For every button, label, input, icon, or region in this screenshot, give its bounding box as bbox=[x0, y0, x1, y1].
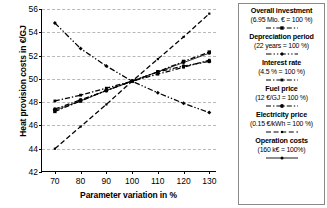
data-point-marker bbox=[53, 100, 56, 103]
data-point-marker bbox=[80, 125, 82, 127]
legend-entry-interest-rate[interactable]: Interest rate(4.5 % = 100 %) bbox=[240, 58, 323, 84]
series-depreciation-period bbox=[53, 21, 211, 115]
y-tick-label: 52 bbox=[29, 51, 38, 61]
x-tick-label: 70 bbox=[50, 176, 59, 186]
legend-entry-reference: (4.5 % = 100 %) bbox=[240, 67, 323, 76]
data-point-marker bbox=[105, 103, 107, 105]
legend-line-swatch-icon bbox=[240, 76, 323, 84]
legend-entry-label: Electricity price bbox=[240, 110, 323, 119]
legend-entry-overall-investment[interactable]: Overall investment(6.95 Mio. € = 100 %) bbox=[240, 6, 323, 32]
data-point-marker bbox=[182, 64, 186, 68]
legend-entry-reference: (0.15 €/kWh = 100 %) bbox=[240, 119, 323, 128]
y-tick-mark bbox=[39, 172, 42, 173]
legend-entry-reference: (160 k€ = 100%) bbox=[240, 145, 323, 154]
legend-entry-reference: (22 years = 100 %) bbox=[240, 41, 323, 50]
data-point-marker bbox=[182, 61, 185, 64]
data-point-marker bbox=[207, 111, 211, 115]
data-point-marker bbox=[280, 79, 283, 82]
x-tick-label: 90 bbox=[102, 176, 111, 186]
y-tick-label: 44 bbox=[29, 144, 38, 154]
data-point-marker bbox=[280, 104, 284, 108]
y-tick-label: 48 bbox=[29, 97, 38, 107]
data-point-marker bbox=[182, 36, 184, 38]
series-lines bbox=[42, 9, 217, 172]
legend-entry-label: Depreciation period bbox=[240, 32, 323, 41]
y-tick-label: 50 bbox=[29, 74, 38, 84]
data-point-marker bbox=[79, 99, 82, 102]
legend-entry-label: Overall investment bbox=[240, 6, 323, 15]
legend-entry-fuel-price[interactable]: Fuel price(12 €/GJ = 100 %) bbox=[240, 84, 323, 110]
legend-line-swatch-icon bbox=[240, 50, 323, 58]
data-point-marker bbox=[208, 52, 211, 55]
data-point-marker bbox=[156, 70, 159, 73]
legend-entry-label: Operation costs bbox=[240, 136, 323, 145]
legend-entry-label: Fuel price bbox=[240, 84, 323, 93]
data-point-marker bbox=[156, 91, 160, 95]
plot-area: 4244464850525456 708090100110120130 bbox=[41, 9, 216, 172]
legend-entry-depreciation-period[interactable]: Depreciation period(22 years = 100 %) bbox=[240, 32, 323, 58]
y-tick-label: 42 bbox=[29, 167, 38, 177]
legend-entry-reference: (6.95 Mio. € = 100 %) bbox=[240, 15, 323, 24]
legend-entry-label: Interest rate bbox=[240, 58, 323, 67]
data-point-marker bbox=[105, 89, 108, 92]
y-tick-label: 56 bbox=[29, 4, 38, 14]
data-point-marker bbox=[157, 58, 159, 60]
y-tick-label: 46 bbox=[29, 120, 38, 130]
legend-entry-electricity-price[interactable]: Electricity price(0.15 €/kWh = 100 %) bbox=[240, 110, 323, 136]
series-fuel-price bbox=[53, 59, 211, 111]
legend-entry-operation-costs[interactable]: Operation costs(160 k€ = 100%) bbox=[240, 136, 323, 162]
data-point-marker bbox=[54, 148, 56, 150]
data-point-marker bbox=[280, 26, 283, 29]
data-point-marker bbox=[131, 80, 134, 83]
legend-line-swatch-icon bbox=[240, 154, 323, 162]
data-point-marker bbox=[280, 52, 284, 56]
legend-line-swatch-icon bbox=[240, 128, 323, 136]
series-line bbox=[55, 23, 209, 113]
y-axis-title: Heat provision costs in €/GJ bbox=[18, 1, 28, 161]
data-point-marker bbox=[280, 131, 282, 133]
x-tick-label: 100 bbox=[125, 176, 139, 186]
data-point-marker bbox=[79, 94, 82, 97]
x-tick-label: 130 bbox=[202, 176, 216, 186]
data-point-marker bbox=[207, 59, 211, 63]
data-point-marker bbox=[208, 13, 210, 15]
data-point-marker bbox=[182, 101, 186, 105]
data-point-marker bbox=[53, 109, 56, 112]
chart-legend: Overall investment(6.95 Mio. € = 100 %)D… bbox=[238, 3, 325, 205]
y-tick-label: 54 bbox=[29, 27, 38, 37]
x-tick-label: 110 bbox=[151, 176, 165, 186]
x-axis-title: Parameter variation in % bbox=[41, 190, 216, 200]
x-tick-label: 80 bbox=[76, 176, 85, 186]
chart-figure: Heat provision costs in €/GJ 42444648505… bbox=[0, 0, 327, 208]
data-point-marker bbox=[280, 157, 283, 160]
legend-line-swatch-icon bbox=[240, 24, 323, 32]
legend-entry-reference: (12 €/GJ = 100 %) bbox=[240, 93, 323, 102]
data-point-marker bbox=[79, 47, 83, 51]
legend-line-swatch-icon bbox=[240, 102, 323, 110]
x-tick-label: 120 bbox=[176, 176, 190, 186]
